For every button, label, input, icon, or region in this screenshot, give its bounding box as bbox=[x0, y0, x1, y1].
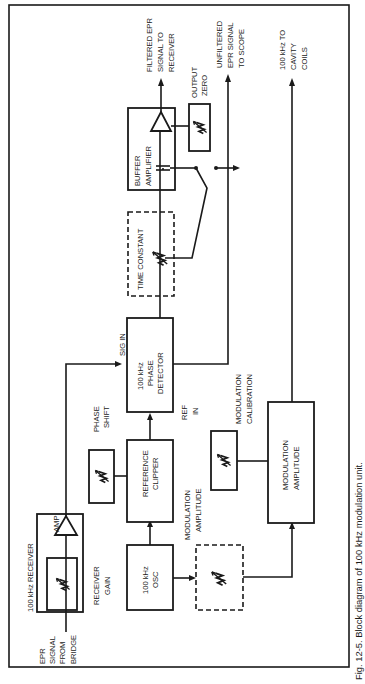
detector-label-1: 100 kHz bbox=[136, 362, 145, 390]
filtered-output-label-1: FILTERED EPR bbox=[145, 18, 154, 72]
input-label-2: SIGNAL bbox=[48, 636, 57, 664]
output-zero-label-1: OUTPUT bbox=[190, 66, 199, 98]
filtered-output-label-3: RECEIVER bbox=[167, 33, 176, 72]
detector-label-3: DETECTOR bbox=[156, 352, 165, 394]
amp-label: AMP bbox=[52, 516, 61, 532]
osc-block bbox=[127, 545, 173, 610]
ref-in-label-1: REF bbox=[180, 404, 189, 420]
osc-label-1: 100 kHz bbox=[141, 566, 150, 594]
phase-shift-label-1: PHASE bbox=[92, 406, 101, 432]
block-diagram: 100 kHz RECEIVER AMP RECEIVER GAIN EPR S… bbox=[0, 0, 365, 684]
clipper-label-2: CLIPPER bbox=[151, 457, 160, 490]
receiver-block: 100 kHz RECEIVER AMP bbox=[26, 514, 83, 612]
reference-clipper-block bbox=[127, 440, 173, 522]
mod-cal-label-1: MODULATION bbox=[234, 374, 243, 424]
time-constant-label: TIME CONSTANT bbox=[136, 228, 145, 290]
cavity-output-label-2: CAVITY bbox=[289, 43, 298, 70]
osc-label-2: OSC bbox=[151, 571, 160, 588]
unfiltered-output-label-1: UNFILTERED bbox=[215, 20, 224, 68]
clipper-label-1: REFERENCE bbox=[141, 450, 150, 497]
receiver-gain-label-1: RECEIVER bbox=[92, 566, 101, 605]
input-label-3: FROM bbox=[58, 642, 67, 664]
modulation-amplitude-block bbox=[268, 402, 314, 523]
time-constant-block bbox=[128, 212, 174, 296]
output-zero-label-2: ZERO bbox=[200, 75, 209, 96]
detector-label-2: PHASE bbox=[146, 360, 155, 386]
figure-caption: Fig. 12-5. Block diagram of 100 kHz modu… bbox=[353, 462, 364, 680]
mod-block-label-1: MODULATION bbox=[281, 440, 290, 490]
input-label-4: BRIDGE bbox=[69, 635, 78, 664]
buffer-label-1: BUFFER bbox=[133, 155, 142, 186]
mod-amp-label-1: MODULATION bbox=[183, 490, 192, 540]
unfiltered-output-label-2: EPR SIGNAL bbox=[226, 22, 235, 68]
buffer-label-2: AMPLIFIER bbox=[144, 145, 153, 186]
receiver-title: 100 kHz RECEIVER bbox=[26, 543, 35, 612]
cavity-output-label-3: COILS bbox=[300, 47, 309, 70]
mod-cal-label-2: CALIBRATION bbox=[245, 374, 254, 424]
mod-amplitude-pot-icon bbox=[212, 572, 226, 585]
phase-shift-label-2: SHIFT bbox=[102, 406, 111, 428]
filtered-output-label-2: SIGNAL TO bbox=[156, 32, 165, 72]
input-label-1: EPR bbox=[38, 648, 47, 664]
mod-block-label-2: AMPLITUDE bbox=[292, 447, 301, 490]
receiver-gain-label-2: GAIN bbox=[103, 576, 112, 595]
cavity-output-label-1: 100 kHz TO bbox=[278, 30, 287, 70]
unfiltered-output-label-3: TO SCOPE bbox=[237, 29, 246, 68]
ref-in-label-2: IN bbox=[191, 407, 200, 415]
sig-in-label: SIG IN bbox=[118, 333, 127, 356]
mod-amp-label-2: AMPLITUDE bbox=[194, 489, 203, 532]
